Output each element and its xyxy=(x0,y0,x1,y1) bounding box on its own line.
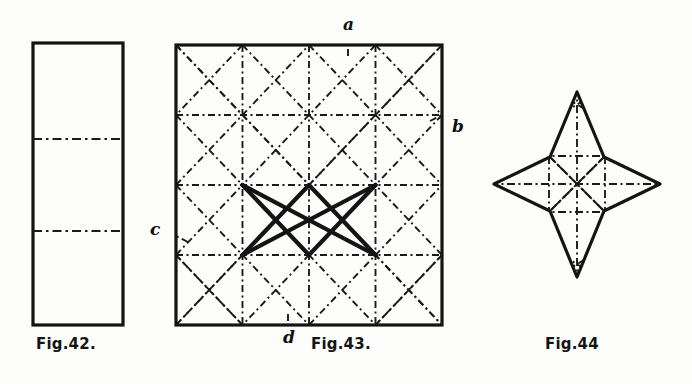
fig-43-caption: Fig.43. xyxy=(311,335,371,353)
fig-43-label-a: a xyxy=(343,14,354,34)
fig-43-label-b: b xyxy=(452,116,464,136)
figure-plate: .solid { stroke:#141414; stroke-width:3.… xyxy=(0,0,692,384)
fig-44-internal-pattern xyxy=(490,88,664,281)
fig-44-drawing xyxy=(490,88,664,281)
fig-42-drawing xyxy=(33,43,123,325)
fig-42-outline xyxy=(33,43,123,325)
fig-42-caption: Fig.42. xyxy=(36,335,96,353)
figures-canvas: .solid { stroke:#141414; stroke-width:3.… xyxy=(0,0,692,384)
fig-43-drawing xyxy=(176,45,442,325)
fig-43-label-d: d xyxy=(283,327,295,347)
fig-43-label-c: c xyxy=(150,219,160,239)
fig-44-caption: Fig.44 xyxy=(545,335,599,353)
